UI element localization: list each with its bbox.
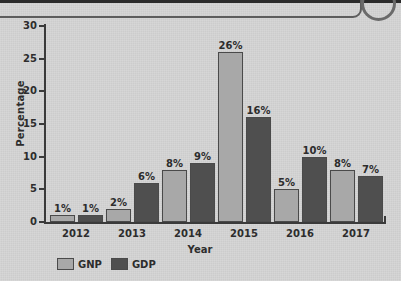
bar-value-label: 16%: [247, 106, 271, 116]
bar-gnp-2017[interactable]: 8%: [330, 170, 355, 222]
y-tick: [39, 25, 46, 27]
y-tick: [39, 188, 46, 190]
bar-gdp-2014[interactable]: 9%: [190, 163, 215, 222]
bar-gdp-2017[interactable]: 7%: [358, 176, 383, 222]
y-tick-label: 30: [13, 21, 37, 31]
x-category-label-2017: 2017: [329, 228, 383, 239]
bar-gdp-2015[interactable]: 16%: [246, 117, 271, 222]
y-tick-label: 15: [13, 119, 37, 129]
legend-swatch-gnp: [57, 258, 74, 270]
bar-chart: Percentage Year 051015202530 1%1%2%6%8%9…: [0, 0, 401, 281]
bar-value-label: 9%: [194, 152, 211, 162]
bar-gdp-2013[interactable]: 6%: [134, 183, 159, 222]
bar-value-label: 6%: [138, 172, 155, 182]
bar-group: 8%9%: [162, 24, 215, 222]
bar-value-label: 8%: [166, 159, 183, 169]
legend-item-gdp[interactable]: GDP: [111, 258, 156, 270]
bar-group: 8%7%: [330, 24, 383, 222]
bar-value-label: 26%: [219, 41, 243, 51]
legend-label: GDP: [132, 259, 156, 270]
x-category-label-2015: 2015: [217, 228, 271, 239]
y-tick: [39, 58, 46, 60]
bar-gnp-2013[interactable]: 2%: [106, 209, 131, 222]
x-category-label-2012: 2012: [49, 228, 103, 239]
y-tick: [39, 90, 46, 92]
bar-value-label: 1%: [82, 204, 99, 214]
bar-gdp-2016[interactable]: 10%: [302, 157, 327, 222]
bar-group: 5%10%: [274, 24, 327, 222]
bar-gdp-2012[interactable]: 1%: [78, 215, 103, 222]
bar-value-label: 10%: [303, 146, 327, 156]
legend-label: GNP: [78, 259, 102, 270]
bar-gnp-2015[interactable]: 26%: [218, 52, 243, 222]
x-axis-line: [44, 222, 386, 224]
y-tick-label: 5: [13, 184, 37, 194]
y-tick: [39, 221, 46, 223]
bar-value-label: 2%: [110, 198, 127, 208]
y-tick: [39, 156, 46, 158]
y-tick: [39, 123, 46, 125]
x-category-label-2013: 2013: [105, 228, 159, 239]
scanned-page: Percentage Year 051015202530 1%1%2%6%8%9…: [0, 0, 401, 281]
bar-gnp-2014[interactable]: 8%: [162, 170, 187, 222]
x-axis-end-tick: [384, 216, 386, 224]
x-category-label-2014: 2014: [161, 228, 215, 239]
legend-swatch-gdp: [111, 258, 128, 270]
bar-group: 2%6%: [106, 24, 159, 222]
bar-gnp-2016[interactable]: 5%: [274, 189, 299, 222]
y-tick-label: 10: [13, 152, 37, 162]
bar-group: 26%16%: [218, 24, 271, 222]
y-tick-label: 0: [13, 217, 37, 227]
bar-group: 1%1%: [50, 24, 103, 222]
y-tick-label: 20: [13, 86, 37, 96]
legend-item-gnp[interactable]: GNP: [57, 258, 102, 270]
y-tick-label: 25: [13, 54, 37, 64]
chart-legend: GNPGDP: [57, 258, 156, 270]
bar-gnp-2012[interactable]: 1%: [50, 215, 75, 222]
bar-value-label: 7%: [362, 165, 379, 175]
bar-value-label: 8%: [334, 159, 351, 169]
bar-value-label: 1%: [54, 204, 71, 214]
x-axis-title: Year: [150, 244, 250, 255]
bar-value-label: 5%: [278, 178, 295, 188]
x-category-label-2016: 2016: [273, 228, 327, 239]
